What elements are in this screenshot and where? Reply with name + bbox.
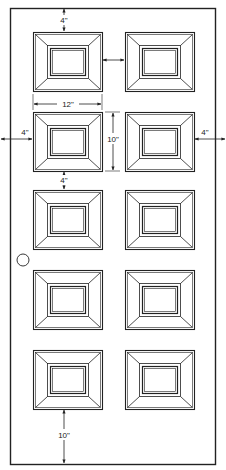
dimension-label-row-gap: 4" — [60, 176, 67, 185]
dimension-label-left-margin: 4" — [21, 128, 28, 137]
door-panel — [34, 113, 103, 172]
door-diagram: 4" 12" 10" 4" 4" — [0, 0, 226, 470]
door-panel — [34, 271, 103, 330]
dimension-label-bottom-margin: 10" — [58, 431, 70, 440]
door-panel — [126, 191, 195, 250]
door-panel — [126, 271, 195, 330]
doorknob-icon — [17, 254, 29, 266]
door-panel — [126, 33, 195, 92]
door-panel — [126, 351, 195, 410]
dimension-label-right-margin: 4" — [201, 128, 208, 137]
dimension-label-top-margin: 4" — [60, 16, 67, 25]
door-panel — [126, 113, 195, 172]
dimension-label-panel-height: 10" — [107, 135, 119, 144]
door-panel — [34, 191, 103, 250]
door-drawing: 4" 12" 10" 4" 4" — [0, 0, 226, 470]
door-panel — [34, 33, 103, 92]
door-panel — [34, 351, 103, 410]
dimension-label-panel-width: 12" — [62, 100, 74, 109]
